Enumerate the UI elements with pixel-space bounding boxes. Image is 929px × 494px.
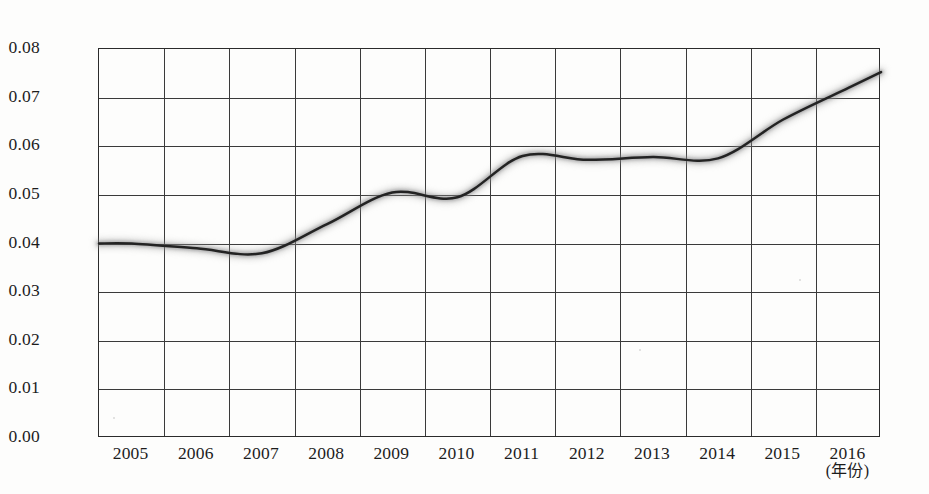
x-tick-text: 2007 [243, 443, 279, 463]
x-tick-label: 2005 [113, 444, 149, 462]
series-halo-outer [99, 72, 881, 254]
x-tick-text: 2011 [504, 443, 539, 463]
y-tick-label: 0.08 [0, 39, 40, 57]
x-tick-label: 2007 [243, 444, 279, 462]
x-tick-text: 2008 [308, 443, 344, 463]
x-axis-unit-label: (年份) [826, 463, 869, 480]
x-tick-label: 2008 [308, 444, 344, 462]
x-tick-label: 2015 [764, 444, 800, 462]
y-tick-label: 0.06 [0, 137, 40, 155]
paper-speckle [113, 417, 115, 419]
x-tick-text: 2009 [373, 443, 409, 463]
paper-speckle [639, 349, 641, 351]
x-tick-text: 2014 [699, 443, 735, 463]
y-tick-label: 0.03 [0, 282, 40, 300]
series-stroke [99, 72, 881, 254]
x-tick-label: 2010 [439, 444, 475, 462]
x-tick-label: 2011 [504, 444, 539, 462]
y-tick-label: 0.00 [0, 428, 40, 446]
x-tick-text: 2012 [569, 443, 605, 463]
data-series-line [99, 49, 881, 438]
x-tick-text: 2016 [830, 443, 866, 463]
x-tick-text: 2006 [178, 443, 214, 463]
x-tick-label: 2006 [178, 444, 214, 462]
y-tick-label: 0.05 [0, 185, 40, 203]
y-tick-label: 0.02 [0, 331, 40, 349]
paper-speckle [799, 279, 801, 281]
x-tick-text: 2005 [113, 443, 149, 463]
y-tick-label: 0.04 [0, 234, 40, 252]
x-tick-label: 2013 [634, 444, 670, 462]
x-tick-text: 2010 [439, 443, 475, 463]
x-tick-label: 2012 [569, 444, 605, 462]
y-tick-label: 0.07 [0, 88, 40, 106]
y-tick-label: 0.01 [0, 380, 40, 398]
x-tick-label: 2009 [373, 444, 409, 462]
series-halo-inner [99, 72, 881, 254]
x-tick-label-last: 2016 (年份) [826, 444, 869, 480]
x-tick-label: 2014 [699, 444, 735, 462]
x-tick-text: 2013 [634, 443, 670, 463]
plot-area [98, 48, 880, 437]
chart-page: 0.08 0.07 0.06 0.05 0.04 0.03 0.02 0.01 … [0, 0, 929, 494]
x-tick-text: 2015 [764, 443, 800, 463]
